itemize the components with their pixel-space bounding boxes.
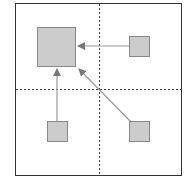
bottom-left-box <box>48 122 68 142</box>
quadrant-diagram <box>0 0 192 181</box>
bottom-right-box <box>130 122 150 142</box>
target-box <box>38 28 76 67</box>
top-right-box <box>130 37 150 57</box>
